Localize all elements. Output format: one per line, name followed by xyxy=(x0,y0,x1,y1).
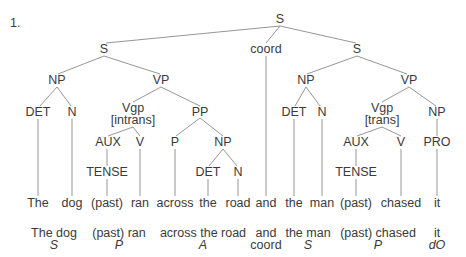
node-right-n: N xyxy=(317,106,326,119)
function-role: S xyxy=(304,239,312,252)
word: (past) xyxy=(340,197,372,210)
node-root-s: S xyxy=(276,13,284,26)
node-left-aux: AUX xyxy=(95,136,121,149)
word: chased xyxy=(381,197,421,210)
node-left-vp: VP xyxy=(153,74,170,87)
function-role: A xyxy=(199,239,207,252)
word: road xyxy=(225,197,250,210)
word: across xyxy=(157,197,194,210)
function-role: dO xyxy=(429,239,446,252)
node-left-np: NP xyxy=(48,74,65,87)
example-number: 1. xyxy=(10,16,20,30)
node-left-n: N xyxy=(67,106,76,119)
node-right-obj-np: NP xyxy=(428,106,445,119)
node-left-vgp-feature: [intrans] xyxy=(111,114,155,127)
word: the xyxy=(285,197,302,210)
function-role: S xyxy=(50,239,58,252)
node-right-det: DET xyxy=(282,106,307,119)
function-role: coord xyxy=(250,239,281,252)
word: (past) xyxy=(91,197,123,210)
node-right-pro: PRO xyxy=(423,136,450,149)
node-right-v: V xyxy=(397,136,405,149)
word: and xyxy=(256,197,277,210)
word: The xyxy=(27,197,49,210)
word: ran xyxy=(131,197,149,210)
word: man xyxy=(310,197,334,210)
node-left-pp-det: DET xyxy=(196,166,221,179)
function-role: P xyxy=(115,239,123,252)
node-right-np: NP xyxy=(297,74,314,87)
node-right-vp: VP xyxy=(401,74,418,87)
word: dog xyxy=(62,197,83,210)
node-left-pp-np: NP xyxy=(214,136,231,149)
word: it xyxy=(434,197,440,210)
node-left-pp-n: N xyxy=(233,166,242,179)
node-right-tense: TENSE xyxy=(335,166,377,179)
node-right-s: S xyxy=(353,43,361,56)
tree-branches xyxy=(0,0,466,257)
node-right-vgp-feature: [trans] xyxy=(365,114,400,127)
node-left-s: S xyxy=(100,43,108,56)
node-left-v: V xyxy=(136,136,144,149)
node-left-det: DET xyxy=(26,106,51,119)
function-role: P xyxy=(374,239,382,252)
node-left-tense: TENSE xyxy=(86,166,128,179)
node-right-aux: AUX xyxy=(343,136,369,149)
node-left-pp: PP xyxy=(192,106,209,119)
word: the xyxy=(199,197,216,210)
node-left-p: P xyxy=(171,136,179,149)
node-coord: coord xyxy=(250,43,281,56)
